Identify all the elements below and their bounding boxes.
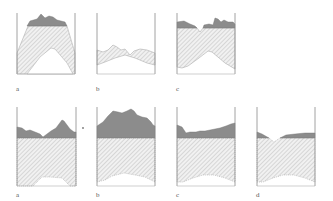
panel-top-c bbox=[177, 13, 235, 74]
panel-bottom-c bbox=[177, 107, 235, 186]
hatched-layer bbox=[177, 138, 235, 182]
hatched-layer bbox=[17, 138, 76, 186]
panel-label-top-c: c bbox=[176, 85, 179, 93]
panel-top-a bbox=[17, 13, 75, 74]
panel-bottom-d bbox=[257, 107, 315, 186]
panel-top-b bbox=[97, 13, 155, 74]
panel-label-top-b: b bbox=[96, 85, 100, 93]
panel-label-bottom-b: b bbox=[96, 191, 100, 199]
panel-bottom-a bbox=[17, 107, 76, 186]
hatched-layer bbox=[177, 28, 235, 69]
panel-label-bottom-c: c bbox=[176, 191, 179, 199]
dark-cap bbox=[97, 109, 155, 138]
dark-cap-right bbox=[203, 18, 235, 28]
dark-cap-left bbox=[257, 132, 269, 138]
dark-cap bbox=[27, 14, 67, 26]
panel-label-bottom-d: d bbox=[256, 191, 260, 199]
panel-label-bottom-a: a bbox=[16, 191, 20, 199]
panel-bottom-b bbox=[97, 107, 155, 186]
dark-cap bbox=[17, 120, 76, 138]
dark-cap bbox=[177, 123, 235, 138]
dark-cap-left bbox=[177, 21, 197, 28]
panel-label-top-a: a bbox=[16, 85, 20, 93]
hatched-layer bbox=[97, 45, 155, 65]
dark-cap-right bbox=[280, 133, 315, 138]
stray-dot-mark bbox=[82, 127, 84, 129]
cross-section-diagram: a b c a b c d bbox=[0, 0, 333, 201]
hatched-layer bbox=[97, 138, 155, 182]
hatched-layer bbox=[257, 138, 315, 182]
